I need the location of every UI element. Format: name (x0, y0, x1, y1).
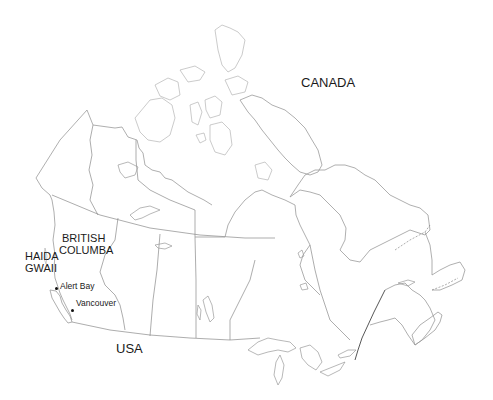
yukon-coast (36, 110, 212, 205)
belcher-islands (298, 250, 304, 258)
manitoba-hudson-coast (195, 190, 320, 295)
lake-athabasca (155, 243, 172, 249)
lake-superior (248, 338, 296, 355)
canada-outline-map (0, 0, 493, 400)
nova-scotia (412, 312, 442, 345)
city-marker-vancouver (71, 309, 74, 312)
province-label-bc: BRITISH COLUMBA (59, 232, 113, 256)
yukon-nwt-border (89, 125, 98, 215)
city-label-alert-bay: Alert Bay (60, 282, 95, 291)
province-label-line2: COLUMBA (59, 244, 113, 256)
sask-manitoba-border (195, 237, 196, 338)
boothia-peninsula (210, 122, 232, 155)
us-border-49th (72, 322, 260, 340)
manitoba-ontario-border (230, 260, 255, 340)
anticosti-island (398, 280, 415, 286)
maritimes-coast (370, 283, 435, 345)
labrador-coast (425, 232, 465, 290)
province-label-line1: BRITISH (59, 232, 113, 244)
lake-winnipegosis (197, 305, 201, 320)
city-marker-alert-bay (55, 287, 58, 290)
devon-island (225, 76, 248, 95)
city-label-vancouver: Vancouver (76, 299, 116, 308)
country-label-usa: USA (116, 342, 143, 356)
alberta-sask-border (150, 234, 160, 336)
island-label-line2: GWAII (25, 262, 59, 274)
james-bay-islands (300, 283, 308, 290)
somerset-island (205, 96, 222, 118)
prince-of-wales-island (190, 102, 202, 125)
ontario-quebec-border (310, 245, 350, 340)
king-william-island (196, 133, 206, 143)
island-label-line1: HAIDA (25, 250, 59, 262)
lake-huron (300, 345, 322, 370)
lake-ontario (338, 350, 356, 358)
quebec-labrador-border (395, 225, 430, 250)
banks-island (155, 78, 180, 100)
great-slave-lake (130, 206, 160, 220)
ellesmere-island (215, 25, 245, 72)
hudson-bay-east-coast (290, 165, 430, 262)
lake-michigan (274, 355, 284, 385)
country-label-canada: CANADA (301, 76, 355, 90)
melville-island (180, 66, 205, 82)
baffin-island (240, 95, 322, 175)
victoria-island (135, 98, 175, 142)
lake-erie (320, 362, 345, 376)
southampton-island (255, 162, 272, 180)
lake-winnipeg (203, 296, 214, 322)
island-label-haida-gwaii: HAIDA GWAII (25, 250, 59, 274)
great-bear-lake (118, 162, 138, 178)
nunavut-nwt-border (136, 140, 195, 237)
